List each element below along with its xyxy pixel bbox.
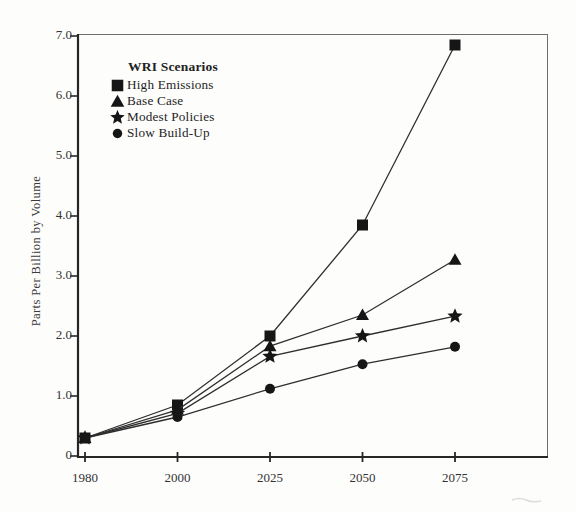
triangle-marker — [356, 309, 369, 321]
legend-item-label: Base Case — [127, 93, 183, 109]
legend-item: Base Case — [110, 93, 218, 109]
series-star — [77, 308, 462, 444]
y-tick-label: 6.0 — [56, 87, 72, 102]
chart-canvas: 7.06.05.04.03.02.01.00 19802000202520502… — [0, 0, 576, 512]
y-tick-label: 0 — [66, 447, 73, 462]
x-tick-label: 2025 — [257, 470, 283, 485]
square-icon — [110, 78, 126, 92]
legend-item-label: Slow Build-Up — [127, 125, 210, 141]
triangle-marker — [449, 253, 462, 264]
circle-icon — [110, 126, 126, 140]
square-marker — [112, 80, 124, 92]
circle-marker — [450, 342, 460, 352]
circle-marker — [358, 359, 368, 369]
legend-item: Modest Policies — [110, 109, 218, 125]
circle-marker — [80, 433, 90, 443]
x-tick-label: 2000 — [165, 470, 191, 485]
circle-marker — [173, 412, 183, 422]
circle-marker — [265, 384, 275, 394]
legend-marker-star — [110, 110, 127, 124]
chart-figure: 7.06.05.04.03.02.01.00 19802000202520502… — [0, 0, 576, 512]
star-icon — [110, 110, 126, 124]
y-tick-label: 7.0 — [56, 27, 72, 42]
square-marker — [450, 40, 461, 51]
legend-marker-circle — [110, 126, 127, 140]
y-tick-label: 4.0 — [56, 207, 72, 222]
legend-marker-triangle — [110, 94, 127, 108]
legend-rows: High EmissionsBase CaseModest PoliciesSl… — [110, 77, 218, 141]
legend-item: Slow Build-Up — [110, 125, 218, 141]
x-tick-label: 2050 — [350, 470, 376, 485]
circle-marker — [113, 129, 123, 139]
triangle-marker — [111, 95, 125, 107]
scan-smudge-artifact — [512, 499, 541, 502]
y-axis-title: Parts Per Billion by Volume — [29, 176, 44, 327]
square-marker — [357, 220, 368, 231]
x-tick-label: 1980 — [72, 470, 98, 485]
legend-box: WRI Scenarios High EmissionsBase CaseMod… — [110, 60, 218, 141]
y-tick-label: 3.0 — [56, 267, 72, 282]
legend-item: High Emissions — [110, 77, 218, 93]
y-tick-label: 1.0 — [56, 387, 72, 402]
legend-item-label: Modest Policies — [127, 109, 215, 125]
star-marker — [355, 328, 370, 342]
y-tick-label: 5.0 — [56, 147, 72, 162]
y-tick-label: 2.0 — [56, 327, 72, 342]
legend-marker-square — [110, 78, 127, 92]
legend-title: WRI Scenarios — [128, 60, 218, 74]
x-tick-label: 2075 — [442, 470, 468, 485]
y-ticks: 7.06.05.04.03.02.01.00 — [56, 27, 78, 462]
star-marker — [110, 110, 124, 124]
legend-item-label: High Emissions — [127, 77, 214, 93]
star-marker — [447, 308, 462, 322]
series-triangle — [79, 253, 462, 443]
triangle-icon — [110, 94, 126, 108]
